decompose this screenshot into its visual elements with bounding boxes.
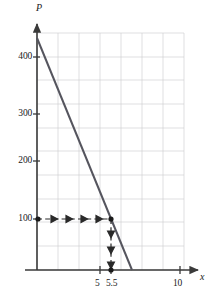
dot-x-axis — [108, 267, 113, 272]
x-axis-label: x — [200, 271, 204, 282]
dot-on-curve — [108, 216, 113, 221]
y-axis-label: P — [36, 2, 42, 13]
y-tick-label-400: 400 — [4, 51, 32, 61]
marker-dots — [35, 216, 113, 272]
demand-line — [37, 38, 132, 270]
x-tick-label-10: 10 — [173, 278, 182, 288]
y-axis — [33, 24, 40, 270]
y-tick-label-100: 100 — [4, 213, 32, 223]
graph-figure: P x 400 300 200 100 5 5.5 10 — [0, 0, 212, 300]
y-tick-label-300: 300 — [4, 108, 32, 118]
plot-canvas — [0, 0, 212, 300]
x-tick-label-5-5: 5.5 — [106, 278, 117, 288]
y-tick-label-200: 200 — [4, 155, 32, 165]
dot-y-axis — [35, 216, 40, 221]
x-tick-label-5: 5 — [95, 278, 100, 288]
